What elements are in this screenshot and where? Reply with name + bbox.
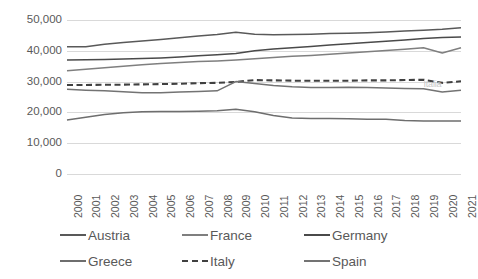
legend-swatch-germany	[304, 234, 330, 236]
y-tick-label: 40,000	[27, 45, 62, 57]
legend-label: Greece	[88, 254, 132, 269]
legend-swatch-spain	[304, 260, 330, 262]
y-tick-label: 30,000	[27, 76, 62, 88]
legend-label: Germany	[332, 228, 388, 243]
series-line-austria	[67, 28, 461, 47]
y-axis-labels: 50,00040,00030,00020,00010,0000	[0, 0, 62, 200]
series-lines	[67, 20, 461, 174]
x-tick-label: 2010	[259, 195, 271, 218]
x-tick-label: 2012	[297, 195, 309, 218]
legend-label: Austria	[88, 228, 130, 243]
x-tick-label: 2004	[147, 195, 159, 218]
x-tick-label: 2002	[109, 195, 121, 218]
x-tick-label: 2013	[315, 195, 327, 218]
x-tick-label: 2018	[409, 195, 421, 218]
chart-legend: AustriaFranceGermanyGreeceItalySpain	[0, 222, 468, 279]
y-tick-label: 0	[56, 168, 62, 180]
series-line-greece	[67, 109, 461, 121]
x-tick-label: 2006	[184, 195, 196, 218]
legend-swatch-austria	[60, 234, 86, 236]
legend-swatch-italy	[182, 260, 208, 262]
x-tick-label: 2011	[278, 195, 290, 218]
legend-item-greece[interactable]: Greece	[60, 254, 164, 269]
x-tick-label: 2017	[390, 195, 402, 218]
series-line-spain	[67, 82, 461, 93]
legend-swatch-greece	[60, 260, 86, 262]
gridline-0	[67, 174, 461, 175]
legend-label: France	[210, 228, 252, 243]
legend-item-france[interactable]: France	[182, 228, 286, 243]
x-tick-label: 2016	[372, 195, 384, 218]
legend-item-austria[interactable]: Austria	[60, 228, 164, 243]
legend-item-spain[interactable]: Spain	[304, 254, 408, 269]
x-tick-label: 2009	[240, 195, 252, 218]
x-tick-label: 2005	[165, 195, 177, 218]
x-tick-label: 2000	[72, 195, 84, 218]
legend-row: AustriaFranceGermany	[0, 222, 468, 248]
x-tick-label: 2014	[334, 195, 346, 218]
x-tick-label: 2020	[447, 195, 459, 218]
x-tick-label: 2008	[222, 195, 234, 218]
plot-area: Italia	[67, 20, 461, 174]
legend-item-germany[interactable]: Germany	[304, 228, 408, 243]
legend-row: GreeceItalySpain	[0, 248, 468, 274]
x-tick-label: 2007	[203, 195, 215, 218]
x-tick-label: 2021	[466, 195, 478, 218]
y-tick-label: 10,000	[27, 137, 62, 149]
x-axis-labels: 2000200120022003200420052006200720082009…	[67, 176, 461, 222]
y-tick-label: 50,000	[27, 14, 62, 26]
legend-label: Italy	[210, 254, 235, 269]
series-line-germany	[67, 37, 461, 60]
y-tick-label: 20,000	[27, 106, 62, 118]
x-tick-label: 2003	[128, 195, 140, 218]
legend-item-italy[interactable]: Italy	[182, 254, 286, 269]
x-tick-label: 2019	[428, 195, 440, 218]
plot-annotation: Italia	[423, 79, 441, 89]
legend-swatch-france	[182, 234, 208, 236]
legend-label: Spain	[332, 254, 367, 269]
x-tick-label: 2015	[353, 195, 365, 218]
x-tick-label: 2001	[90, 195, 102, 218]
